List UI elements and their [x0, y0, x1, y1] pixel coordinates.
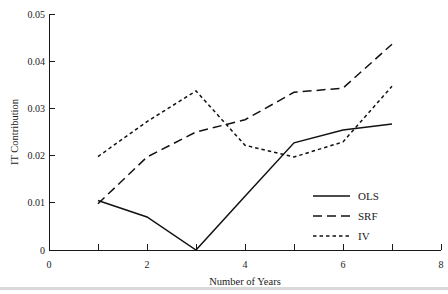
x-tick-label-4: 4 — [243, 259, 248, 270]
y-tick-label-0.02: 0.02 — [28, 150, 46, 161]
series-line-ols — [98, 124, 392, 250]
y-tick-label-0: 0 — [40, 245, 45, 256]
legend-label-ols: OLS — [358, 190, 379, 202]
footer-rule — [0, 287, 448, 290]
chart-figure: 0 0.01 0.02 0.03 0.04 0.05 0 2 4 6 8 Num… — [0, 0, 448, 294]
series-line-iv — [98, 86, 392, 157]
x-ticks — [49, 244, 441, 250]
legend-label-srf: SRF — [358, 210, 378, 222]
legend-label-iv: IV — [358, 230, 370, 242]
series-group — [98, 44, 392, 250]
y-ticks — [49, 14, 55, 250]
x-tick-label-2: 2 — [145, 259, 150, 270]
x-tick-label-6: 6 — [341, 259, 346, 270]
x-tick-label-8: 8 — [439, 259, 444, 270]
x-axis-title: Number of Years — [209, 276, 280, 287]
y-tick-label-0.03: 0.03 — [28, 103, 46, 114]
x-tick-label-0: 0 — [47, 259, 52, 270]
line-chart: 0 0.01 0.02 0.03 0.04 0.05 0 2 4 6 8 Num… — [0, 0, 448, 294]
series-line-srf — [98, 44, 392, 204]
y-tick-label-0.04: 0.04 — [28, 56, 46, 67]
y-tick-label-0.01: 0.01 — [28, 197, 46, 208]
y-tick-label-0.05: 0.05 — [28, 9, 46, 20]
legend: OLS SRF IV — [313, 190, 379, 242]
y-axis-title: IT Contribution — [9, 98, 20, 165]
